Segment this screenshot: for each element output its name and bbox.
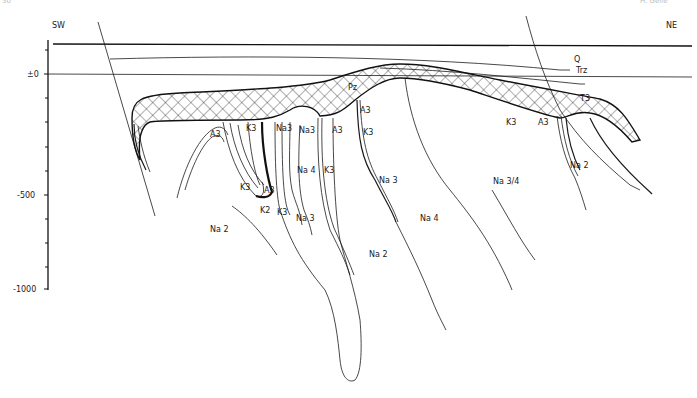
label-k3-fold: K3 [240,183,250,192]
label-na3-top: Na3 [276,124,292,133]
label-na3-lower: Na 3 [296,214,315,223]
tick-label-minus-500: -500 [17,191,35,200]
label-na4-right: Na 4 [420,214,439,223]
depth-axis: ±0 -500 -1000 [13,40,48,294]
label-na3-diag: Na 3 [379,176,398,185]
running-head: H. Geile [640,0,668,5]
tick-label-minus-1000: -1000 [13,285,36,294]
label-q: Q [574,55,580,64]
label-a3-right-top: A3 [360,106,371,115]
label-na3-mid: Na3 [299,126,315,135]
label-a3-mid: A3 [332,126,343,135]
label-na4-center: Na 4 [297,166,316,175]
label-na2-ne: Na 2 [570,161,589,170]
label-k3-center: K3 [324,166,334,175]
label-na2-left: Na 2 [210,225,229,234]
na2-na4-boundary [396,222,446,330]
na34-lower-line [492,190,535,260]
label-na2-center: Na 2 [369,250,388,259]
label-pz: Pz [348,83,357,92]
label-na34: Na 3/4 [493,177,519,186]
ground-surface-line [53,44,692,46]
label-k3-top-left: K3 [246,124,256,133]
page-number: 30 [2,0,11,5]
label-a3-fold: A3 [264,186,275,195]
label-k3-ne: K3 [506,118,516,127]
orientation-ne: NE [666,21,677,30]
label-a3-left: A3 [210,130,221,139]
k3-fold-inner [238,125,264,185]
label-k3-right-top: K3 [363,128,373,137]
k3-line-center-left [282,122,290,215]
label-t3: T3 [579,94,590,103]
geological-cross-section: 30 H. Geile SW NE ±0 -500 -1000 [0,0,697,398]
label-k3-lower: K3 [277,208,287,217]
orientation-sw: SW [52,21,65,30]
label-a3-ne: A3 [538,118,549,127]
a3-arch-inner [185,135,224,190]
k3-line-mid-1 [318,118,350,275]
k3-line-mid-2 [322,118,354,275]
tick-label-zero: ±0 [27,70,39,79]
pz-crosshatched-layer [132,64,640,160]
label-k2-fold: K2 [260,206,270,215]
label-trz: Trz [575,66,587,75]
q-base-line [110,57,570,70]
